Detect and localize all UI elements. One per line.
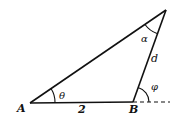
side-label-bc: d (151, 52, 158, 65)
triangle-diagram: A B 2 d θ α φ (0, 0, 178, 120)
side-bc (133, 10, 166, 102)
side-label-ab: 2 (77, 103, 86, 116)
vertex-label-b: B (128, 103, 138, 116)
angle-label-theta: θ (59, 90, 65, 101)
angle-label-phi: φ (151, 81, 158, 92)
triangle-svg: A B 2 d θ α φ (0, 0, 178, 120)
side-ac (30, 10, 166, 103)
angle-arc-theta (51, 89, 55, 103)
angle-label-alpha: α (141, 33, 148, 44)
vertex-label-a: A (16, 102, 26, 115)
angle-arc-phi (138, 88, 149, 103)
